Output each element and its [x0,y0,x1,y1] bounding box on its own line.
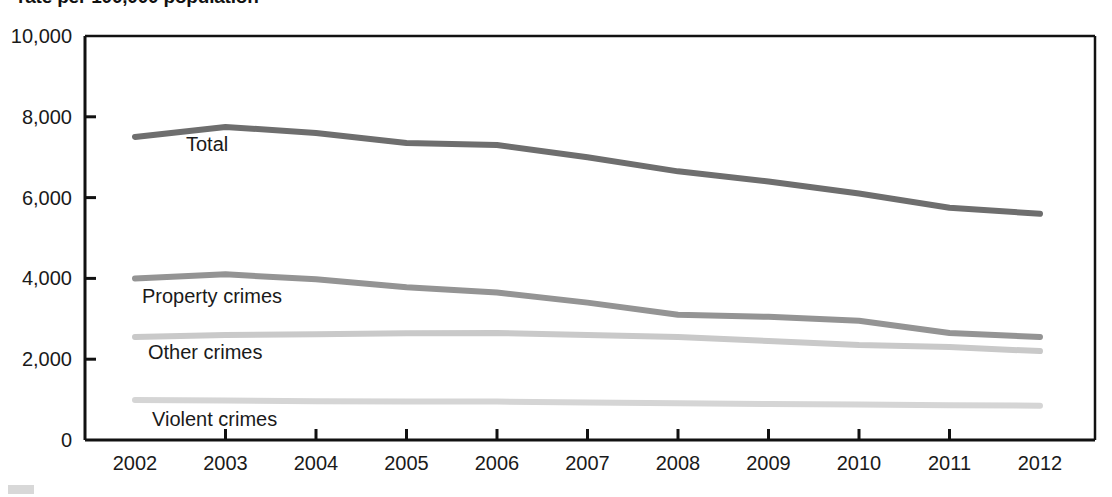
x-axis-tick-label: 2008 [656,452,701,475]
x-axis-tick-label: 2003 [203,452,248,475]
y-axis-ticks [85,117,96,359]
x-axis-tick-label: 2005 [384,452,429,475]
series-line-total [135,127,1040,214]
y-axis-tick-label: 2,000 [0,348,72,371]
y-axis-tick-label: 0 [0,429,72,452]
series-lines [135,127,1040,406]
x-axis-tick-label: 2010 [837,452,882,475]
series-line-violent-crimes [135,400,1040,406]
series-label-total: Total [186,133,228,156]
x-axis-tick-label: 2009 [746,452,791,475]
x-axis-tick-label: 2006 [475,452,520,475]
series-label-property: Property crimes [142,285,282,308]
y-axis-tick-label: 4,000 [0,267,72,290]
series-line-other-crimes [135,333,1040,351]
x-axis-ticks [226,429,950,440]
x-axis-tick-label: 2007 [565,452,610,475]
x-axis-tick-label: 2012 [1018,452,1063,475]
series-label-violent: Violent crimes [152,408,277,431]
y-axis-tick-label: 10,000 [0,25,72,48]
footer-color-swatch [8,485,34,494]
axis-lines [85,36,1095,440]
y-axis-tick-label: 8,000 [0,105,72,128]
y-axis-tick-label: 6,000 [0,186,72,209]
chart-page: rate per 100,000 population 02,0004,0006… [0,0,1112,497]
series-label-other: Other crimes [148,341,262,364]
x-axis-tick-label: 2011 [928,452,971,475]
x-axis-tick-label: 2004 [294,452,339,475]
x-axis-tick-label: 2002 [113,452,158,475]
